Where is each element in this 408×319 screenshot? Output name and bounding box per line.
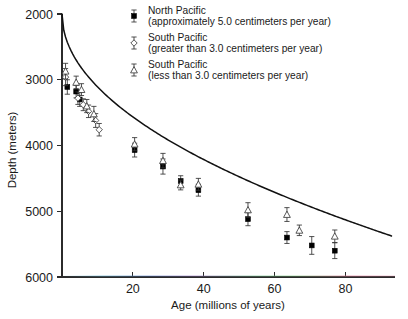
data-point-north-pacific <box>309 243 314 248</box>
y-axis-title: Depth (meters) <box>6 111 18 188</box>
y-axis-ticks: 20003000400050006000 <box>25 8 62 285</box>
data-point-south-pacific-slow <box>131 141 138 147</box>
data-point-north-pacific <box>132 14 137 19</box>
y-tick-label: 6000 <box>25 271 53 285</box>
legend-entry-rate: (less than 3.0 centimeters per year) <box>148 70 308 81</box>
legend-entry-title: South Pacific <box>148 59 207 70</box>
x-tick-label: 60 <box>268 282 282 296</box>
data-point-south-pacific-slow <box>245 207 252 213</box>
y-tick-label: 5000 <box>25 205 53 219</box>
data-point-south-pacific-slow <box>160 157 167 163</box>
y-tick-label: 2000 <box>25 8 53 22</box>
data-point-north-pacific <box>332 248 337 253</box>
legend-entry-rate: (greater than 3.0 centimeters per year) <box>148 43 322 54</box>
y-tick-label: 3000 <box>25 73 53 87</box>
legend-entry-title: South Pacific <box>148 32 207 43</box>
data-point-south-pacific-fast <box>92 117 98 123</box>
chart-legend: North Pacific(approximately 5.0 centimet… <box>131 5 331 81</box>
scatter-plot-svg: 20003000400050006000 20406080 North Paci… <box>0 0 408 319</box>
data-point-south-pacific-slow <box>296 227 303 233</box>
legend-entry-title: North Pacific <box>148 5 206 16</box>
data-point-south-pacific-fast <box>131 40 137 46</box>
legend-entry-rate: (approximately 5.0 centimeters per year) <box>148 16 331 27</box>
chart-figure: 20003000400050006000 20406080 North Paci… <box>0 0 408 319</box>
data-point-south-pacific-slow <box>331 233 338 239</box>
x-axis-title: Age (millions of years) <box>171 299 285 311</box>
data-series <box>62 69 102 136</box>
x-tick-label: 40 <box>197 282 211 296</box>
data-point-north-pacific <box>285 235 290 240</box>
x-tick-label: 80 <box>338 282 352 296</box>
data-point-south-pacific-slow <box>131 67 138 73</box>
data-point-south-pacific-slow <box>284 211 291 217</box>
y-tick-label: 4000 <box>25 139 53 153</box>
data-point-south-pacific-slow <box>78 86 85 92</box>
data-series <box>62 63 338 242</box>
data-point-south-pacific-slow <box>73 79 80 85</box>
x-axis-ticks: 20406080 <box>126 272 353 296</box>
x-tick-label: 20 <box>126 282 140 296</box>
